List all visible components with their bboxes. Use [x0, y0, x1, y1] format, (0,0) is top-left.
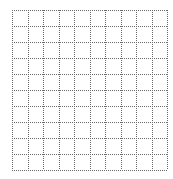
- dotted-grid: [0, 0, 173, 179]
